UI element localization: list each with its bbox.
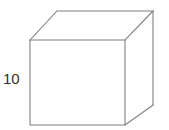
cube-front-face bbox=[30, 40, 125, 125]
cube-height-label: 10 bbox=[3, 70, 20, 87]
cube-drawing bbox=[0, 0, 169, 130]
cube-figure: 10 bbox=[0, 0, 169, 130]
